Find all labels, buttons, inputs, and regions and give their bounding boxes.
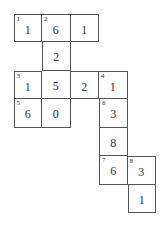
- grid-cell[interactable]: 2: [71, 71, 100, 100]
- grid-cell[interactable]: 31: [14, 71, 43, 100]
- grid-cell[interactable]: 63: [99, 99, 128, 128]
- cell-value: 6: [100, 164, 127, 179]
- grid-cell[interactable]: 11: [14, 14, 43, 43]
- clue-number: 6: [102, 99, 106, 107]
- grid-cell[interactable]: 26: [42, 14, 71, 43]
- cell-value: 1: [15, 80, 42, 95]
- cell-value: 3: [100, 107, 127, 122]
- cell-value: 6: [15, 107, 42, 122]
- cell-value: 1: [15, 23, 42, 38]
- cell-value: 1: [129, 193, 156, 208]
- clue-number: 1: [17, 15, 21, 23]
- grid-cell[interactable]: 2: [42, 42, 71, 71]
- cell-value: 3: [128, 165, 156, 180]
- grid-cell[interactable]: 5: [42, 71, 71, 100]
- clue-number: 5: [17, 99, 21, 107]
- clue-number: 3: [17, 72, 21, 80]
- cell-value: 1: [71, 23, 99, 38]
- grid-cell[interactable]: 83: [128, 156, 157, 185]
- clue-number: 2: [44, 15, 48, 23]
- grid-cell[interactable]: 0: [42, 99, 71, 128]
- clue-number: 7: [102, 156, 106, 164]
- cell-value: 6: [42, 23, 70, 38]
- cell-value: 2: [71, 80, 99, 95]
- grid-cell[interactable]: 56: [14, 99, 43, 128]
- grid-cell[interactable]: 76: [99, 156, 128, 185]
- cell-value: 2: [43, 50, 70, 65]
- cell-value: 1: [99, 80, 127, 95]
- grid-cell[interactable]: 1: [71, 14, 100, 43]
- grid-cell[interactable]: 1: [128, 185, 157, 214]
- clue-number: 4: [101, 72, 105, 80]
- cell-value: 5: [42, 79, 70, 94]
- clue-number: 8: [130, 157, 134, 165]
- grid-cell[interactable]: 41: [99, 71, 128, 100]
- cell-value: 0: [42, 107, 70, 122]
- grid-cell[interactable]: 8: [99, 128, 128, 157]
- cell-value: 8: [100, 136, 127, 151]
